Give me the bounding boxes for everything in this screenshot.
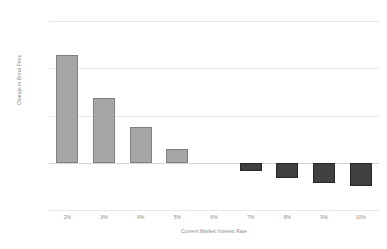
y-axis-title: Change in Bond Price (16, 25, 22, 135)
bar (313, 163, 335, 183)
bar-slot (196, 21, 233, 210)
bar (276, 163, 298, 178)
gridline--100% (49, 210, 379, 211)
bar (166, 149, 188, 163)
bar (240, 163, 262, 172)
bar-slot (86, 21, 123, 210)
bar-slot (306, 21, 343, 210)
x-axis-title: Current Market Interest Rate (49, 228, 379, 234)
bar (130, 127, 152, 162)
bar (56, 55, 78, 163)
bar-slot (159, 21, 196, 210)
bar-slot (49, 21, 86, 210)
bar-slot (269, 21, 306, 210)
bar-slot (232, 21, 269, 210)
bond-price-bar-chart: Change in Bond Price 300%200%100%0%-100%… (0, 0, 387, 249)
bar-slot (342, 21, 379, 210)
x-tick-label: 10% (331, 214, 387, 220)
bar (93, 98, 115, 163)
bar (350, 163, 372, 187)
plot-area: 300%200%100%0%-100% 2%3%4%5%6%7%8%9%10% (49, 21, 379, 210)
bar-series (49, 21, 379, 210)
bar-slot (122, 21, 159, 210)
